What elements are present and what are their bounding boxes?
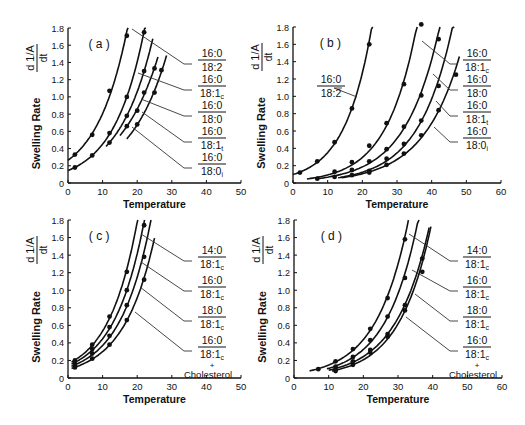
svg-text:14:0: 14:0 — [202, 244, 223, 256]
data-point — [402, 151, 407, 156]
svg-text:18:1c: 18:1c — [200, 348, 224, 361]
data-point — [351, 362, 356, 367]
svg-text:16:0: 16:0 — [202, 334, 223, 346]
y-axis-formula: d 1/Adt — [24, 44, 49, 72]
data-point — [124, 288, 129, 293]
svg-text:16:0: 16:0 — [467, 125, 488, 137]
x-axis-title: Temperature — [367, 393, 430, 405]
x-tick-label: 60 — [497, 381, 508, 392]
y-tick-label: 1.2 — [277, 268, 290, 278]
data-point — [402, 124, 407, 129]
x-tick-label: 20 — [132, 381, 143, 392]
x-tick-label: 40 — [426, 186, 437, 197]
data-point — [419, 133, 424, 138]
y-tick-label: 0.8 — [276, 109, 289, 119]
x-tick-label: 30 — [167, 381, 178, 392]
svg-text:d 1/A: d 1/A — [250, 236, 262, 262]
svg-text:18:2: 18:2 — [202, 61, 223, 73]
data-point — [135, 122, 140, 127]
svg-text:18:0i: 18:0i — [201, 165, 223, 178]
data-point — [142, 90, 147, 95]
svg-text:16:0: 16:0 — [467, 334, 488, 346]
data-point — [384, 121, 389, 126]
data-point — [402, 142, 407, 147]
svg-text:Cholesterol: Cholesterol — [184, 369, 232, 380]
svg-text:16:0: 16:0 — [467, 274, 488, 286]
svg-text:18:1c: 18:1c — [465, 348, 489, 361]
x-tick-label: 10 — [97, 186, 108, 197]
x-tick-label: 20 — [357, 186, 368, 197]
data-point — [367, 42, 372, 47]
data-point — [90, 153, 95, 158]
data-point — [367, 159, 372, 164]
svg-text:18:1c: 18:1c — [465, 258, 489, 271]
svg-text:18:0: 18:0 — [202, 113, 223, 125]
y-tick-label: 0.6 — [276, 127, 289, 137]
panel-label: ( c ) — [89, 229, 110, 243]
svg-text:18:1c: 18:1c — [200, 318, 224, 331]
y-tick-label: 1.6 — [276, 40, 289, 50]
y-tick-label: 0.8 — [51, 303, 64, 313]
x-axis-title: Temperature — [123, 198, 186, 210]
data-point — [90, 342, 95, 347]
x-axis-title: Temperature — [123, 393, 186, 405]
svg-text:16:0: 16:0 — [467, 73, 488, 85]
data-point — [332, 169, 337, 174]
series-curve — [127, 55, 167, 138]
data-point — [107, 140, 112, 145]
data-point — [90, 356, 95, 361]
svg-text:Swelling Rate: Swelling Rate — [30, 291, 42, 363]
data-point — [350, 160, 355, 165]
data-point — [107, 131, 112, 136]
data-point — [124, 94, 129, 99]
svg-text:16:0: 16:0 — [467, 47, 488, 59]
data-point — [384, 156, 389, 161]
y-tick-label: 1.8 — [277, 216, 290, 226]
y-tick-label: 0.6 — [277, 321, 290, 331]
data-point — [124, 113, 129, 118]
x-tick-label: 30 — [392, 186, 403, 197]
data-point — [332, 175, 337, 180]
data-point — [351, 355, 356, 360]
svg-text:16:0: 16:0 — [202, 274, 223, 286]
series-label: 16:018:0 — [433, 73, 491, 99]
series-label: 16:018:0i — [434, 125, 491, 152]
x-tick-label: 50 — [236, 186, 247, 197]
svg-text:dt: dt — [38, 246, 49, 255]
series-curve — [332, 227, 431, 372]
x-tick-label: 0 — [290, 186, 295, 197]
x-tick-label: 40 — [427, 381, 438, 392]
data-point — [332, 140, 337, 145]
panel-label: ( d ) — [321, 229, 342, 243]
y-tick-label: 1.4 — [277, 251, 290, 261]
data-point — [142, 30, 147, 35]
panel-c: 00.20.40.60.81.01.21.41.61.801020304050T… — [24, 216, 246, 406]
data-point — [142, 69, 147, 74]
y-tick-label: 0 — [59, 179, 64, 189]
y-axis-title: Swelling Rate — [30, 291, 42, 363]
data-point — [142, 223, 147, 228]
y-tick-label: 1.4 — [51, 251, 64, 261]
data-point — [152, 66, 157, 71]
data-point — [333, 369, 338, 374]
y-axis-formula: d 1/Adt — [249, 43, 274, 71]
svg-text:Cholesterol: Cholesterol — [449, 369, 497, 380]
data-point — [152, 90, 157, 95]
data-point — [420, 269, 425, 274]
x-tick-label: 40 — [201, 186, 212, 197]
y-axis-formula: d 1/Adt — [250, 236, 275, 264]
y-tick-label: 0.4 — [277, 338, 290, 348]
svg-text:14:0: 14:0 — [467, 244, 488, 256]
data-point — [135, 108, 140, 113]
y-tick-label: 0.6 — [51, 127, 64, 137]
panel-b: 00.20.40.60.81.01.21.41.61.8010203040506… — [249, 22, 506, 210]
y-tick-label: 1.0 — [276, 92, 289, 102]
svg-text:Swelling Rate: Swelling Rate — [256, 291, 268, 363]
data-point — [367, 170, 372, 175]
series-label: 16:018:1t — [436, 99, 491, 126]
data-point — [107, 325, 112, 330]
data-point — [368, 350, 373, 355]
x-tick-label: 10 — [322, 186, 333, 197]
y-tick-label: 1.2 — [51, 268, 64, 278]
data-point — [368, 338, 373, 343]
